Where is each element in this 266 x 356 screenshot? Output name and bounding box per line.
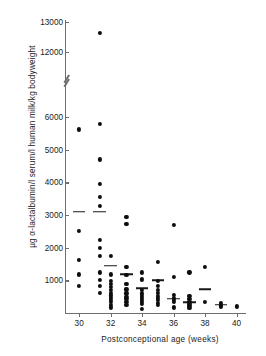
data-point <box>156 260 160 264</box>
data-point <box>124 222 128 226</box>
data-point <box>77 228 81 232</box>
data-point <box>98 270 102 274</box>
data-point <box>77 258 81 262</box>
data-point <box>219 305 223 309</box>
x-tick-label: 36 <box>169 319 178 328</box>
y-tick <box>65 248 69 249</box>
data-point <box>156 283 160 287</box>
x-tick-label: 34 <box>138 319 147 328</box>
y-tick-label: 4000 <box>45 178 63 187</box>
x-tick <box>111 313 112 317</box>
data-point <box>187 270 191 274</box>
y-tick-label: 3000 <box>45 211 63 220</box>
data-point <box>172 223 176 227</box>
data-point <box>187 306 191 310</box>
data-point <box>124 215 128 219</box>
x-axis-line <box>65 313 246 314</box>
y-tick-label: 12000 <box>40 48 63 57</box>
data-point <box>77 127 81 131</box>
data-point <box>203 265 207 269</box>
data-point <box>98 204 102 208</box>
median-bar <box>199 289 212 291</box>
data-point <box>172 300 176 304</box>
x-tick <box>205 313 206 317</box>
y-tick <box>65 280 69 281</box>
data-point <box>124 265 128 269</box>
x-tick <box>174 313 175 317</box>
y-axis-line <box>65 20 66 314</box>
y-tick-label: 6000 <box>45 113 63 122</box>
data-point <box>77 272 81 276</box>
y-tick-label: 13000 <box>40 18 63 27</box>
data-point <box>98 157 102 161</box>
x-tick-label: 38 <box>201 319 210 328</box>
median-bar <box>104 265 117 267</box>
x-tick <box>79 313 80 317</box>
data-point <box>140 277 144 281</box>
data-point <box>77 284 81 288</box>
data-point <box>156 303 160 307</box>
data-point <box>98 30 102 34</box>
data-point <box>172 305 176 309</box>
data-point <box>140 302 144 306</box>
y-tick <box>65 215 69 216</box>
data-point <box>98 182 102 186</box>
data-point <box>98 238 102 242</box>
x-tick-label: 32 <box>106 319 115 328</box>
data-point <box>109 253 113 257</box>
data-point <box>203 300 207 304</box>
median-bar <box>73 211 86 213</box>
data-point <box>98 278 102 282</box>
data-point <box>98 254 102 258</box>
data-point <box>109 305 113 309</box>
y-tick-label: 5000 <box>45 145 63 154</box>
data-point <box>124 302 128 306</box>
y-tick-label: 1000 <box>45 276 63 285</box>
y-tick <box>65 150 69 151</box>
data-point <box>124 273 128 277</box>
data-point <box>140 270 144 274</box>
y-tick-label: 2000 <box>45 243 63 252</box>
data-point <box>124 282 128 286</box>
data-point <box>98 195 102 199</box>
data-point <box>234 304 238 308</box>
data-point <box>140 307 144 311</box>
x-tick-label: 30 <box>75 319 84 328</box>
data-point <box>98 121 102 125</box>
data-point <box>109 272 113 276</box>
data-point <box>156 279 160 283</box>
y-tick <box>65 52 69 53</box>
data-point <box>98 291 102 295</box>
y-tick <box>65 182 69 183</box>
chart-container: µg α-lactalbumin/l serum/l human milk/kg… <box>0 0 266 356</box>
data-point <box>98 246 102 250</box>
data-point <box>172 275 176 279</box>
x-tick <box>142 313 143 317</box>
x-tick <box>237 313 238 317</box>
y-axis-label: µg α-lactalbumin/l serum/l human milk/kg… <box>28 0 37 297</box>
x-axis-label: Postconceptional age (weeks) <box>60 335 260 344</box>
data-point <box>98 284 102 288</box>
y-tick <box>65 117 69 118</box>
median-bar <box>93 211 106 213</box>
x-tick-label: 40 <box>232 319 241 328</box>
y-tick <box>65 22 69 23</box>
